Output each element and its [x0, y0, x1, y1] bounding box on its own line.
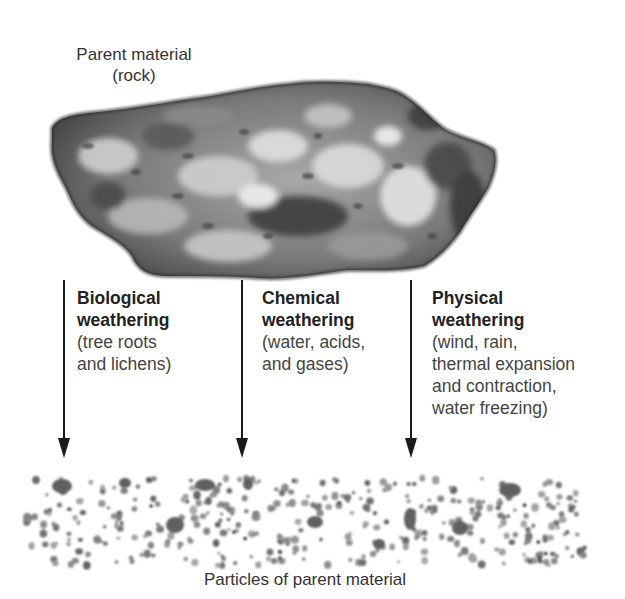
particles-caption: Particles of parent material [140, 569, 470, 591]
arrow-down-icon [235, 280, 249, 460]
particles-icon [15, 470, 595, 580]
process-description: and contraction, [432, 375, 575, 397]
process-description: water freezing) [432, 397, 575, 419]
biological-weathering-label: Biological weathering (tree roots and li… [77, 287, 171, 375]
rock-icon [48, 76, 500, 282]
process-description: (water, acids, [262, 331, 365, 353]
arrow-down-icon [404, 280, 418, 460]
process-heading: Chemical [262, 287, 365, 309]
process-description: (tree roots [77, 331, 171, 353]
process-description: and gases) [262, 353, 365, 375]
arrow-down-icon [57, 280, 71, 460]
physical-weathering-label: Physical weathering (wind, rain, thermal… [432, 287, 575, 419]
process-heading: weathering [432, 309, 575, 331]
parent-material-title: Parent material [62, 44, 206, 65]
process-description: (wind, rain, [432, 331, 575, 353]
process-description: and lichens) [77, 353, 171, 375]
process-heading: weathering [77, 309, 171, 331]
rock-illustration [48, 76, 500, 282]
process-heading: Physical [432, 287, 575, 309]
process-description: thermal expansion [432, 353, 575, 375]
process-heading: Biological [77, 287, 171, 309]
chemical-weathering-label: Chemical weathering (water, acids, and g… [262, 287, 365, 375]
particles-illustration [15, 470, 595, 580]
process-heading: weathering [262, 309, 365, 331]
